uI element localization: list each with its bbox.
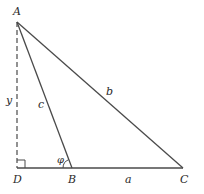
vertex-label-d: D <box>12 173 22 186</box>
side-label-b: b <box>106 85 113 98</box>
side-label-a: a <box>125 173 132 186</box>
vertex-label-a: A <box>12 5 21 18</box>
vertex-label-b: B <box>67 173 76 186</box>
angle-label-phi: φ <box>57 154 64 165</box>
side-c <box>17 22 72 168</box>
side-b <box>17 22 183 168</box>
side-label-c: c <box>38 98 44 111</box>
triangle-diagram: A D B C y c b a φ <box>0 0 204 194</box>
right-angle-marker <box>17 160 25 168</box>
vertex-label-c: C <box>180 173 189 186</box>
side-label-y: y <box>5 94 13 107</box>
